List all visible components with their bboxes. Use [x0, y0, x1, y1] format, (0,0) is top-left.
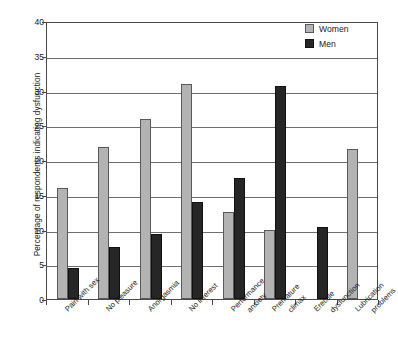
y-tick-label: 35 [14, 52, 44, 62]
bar-women-no-pleasure [98, 147, 109, 299]
y-tick-label: 0 [14, 295, 44, 305]
bar-women-lubrication-problems [347, 149, 358, 299]
legend-label: Women [319, 24, 348, 34]
y-tick-label: 20 [14, 156, 44, 166]
bar-women-pain-with-sex [57, 188, 68, 299]
y-tick-label: 10 [14, 226, 44, 236]
x-tick-mark [46, 300, 47, 305]
x-tick-mark [88, 300, 89, 305]
x-tick-mark [129, 300, 130, 305]
y-tick-label: 5 [14, 260, 44, 270]
x-tick-mark [171, 300, 172, 305]
women-swatch [305, 24, 314, 33]
men-swatch [305, 39, 314, 48]
legend-item-men: Men [305, 37, 377, 50]
bar-men-performance-anxiety [234, 178, 245, 299]
bar-men-premature-climax [275, 86, 286, 299]
y-tick-label: 30 [14, 87, 44, 97]
gridline [47, 197, 377, 198]
bar-women-performance-anxiety [223, 212, 234, 299]
gridline [47, 127, 377, 128]
bar-women-premature-climax [264, 230, 275, 300]
y-tick-label: 40 [14, 17, 44, 27]
bar-men-anorgasmia [151, 234, 162, 299]
bar-women-anorgasmia [140, 119, 151, 299]
gridline [47, 162, 377, 163]
y-tick-label: 15 [14, 191, 44, 201]
bar-chart: Percentage of respondents indicating dys… [0, 0, 398, 355]
plot-area [46, 22, 378, 300]
chart-legend: WomenMen [305, 22, 377, 52]
bar-men-no-interest [192, 202, 203, 299]
legend-label: Men [319, 39, 336, 49]
x-tick-mark [212, 300, 213, 305]
gridline [47, 58, 377, 59]
legend-item-women: Women [305, 22, 377, 35]
bar-women-no-interest [181, 84, 192, 299]
gridline [47, 93, 377, 94]
y-tick-label: 25 [14, 121, 44, 131]
bar-men-erectile-dysfunction [317, 227, 328, 299]
